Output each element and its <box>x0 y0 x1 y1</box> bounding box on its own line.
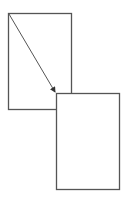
target-page-rect <box>57 94 120 190</box>
diagram-canvas <box>0 0 125 199</box>
